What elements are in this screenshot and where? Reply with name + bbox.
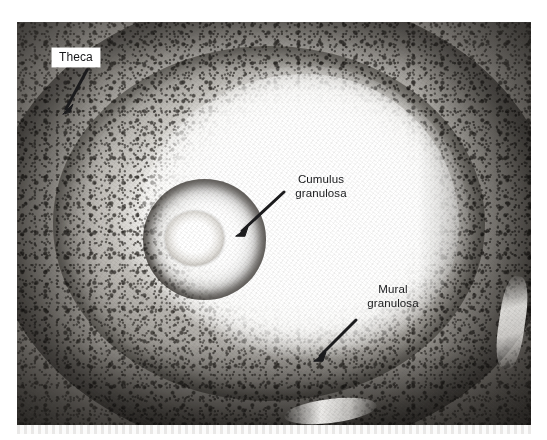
annotation-label-mural[interactable]: Mural granulosa xyxy=(355,283,431,310)
micrograph-image xyxy=(17,22,531,425)
annotation-label-theca[interactable]: Theca xyxy=(52,48,100,67)
scan-edge-band xyxy=(17,425,531,434)
oocyte xyxy=(165,211,224,265)
annotation-label-cumulus[interactable]: Cumulus granulosa xyxy=(283,173,359,200)
figure-micrograph: Theca Cumulus granulosa Mural granulosa xyxy=(0,0,547,440)
